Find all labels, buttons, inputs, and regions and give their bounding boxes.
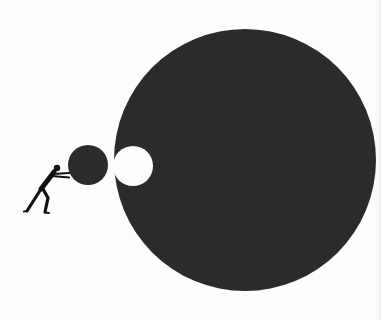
figure-leg-front <box>43 189 48 212</box>
figure-leg-back <box>27 189 41 211</box>
figure-arm-lower <box>52 176 69 178</box>
figure-arm-upper <box>53 173 69 174</box>
pushing-person-icon <box>24 165 69 213</box>
notch-cutout <box>113 146 153 186</box>
figure-foot-back <box>24 211 27 212</box>
figure-foot-front <box>45 213 49 214</box>
small-ball <box>68 145 108 185</box>
illustration-canvas <box>0 0 381 320</box>
large-circle <box>114 29 376 291</box>
